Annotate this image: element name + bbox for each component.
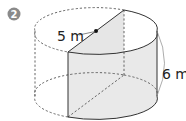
center-point <box>94 29 98 33</box>
height-label: 6 m <box>162 66 186 82</box>
problem-number-badge: 2 <box>8 8 21 21</box>
problem-number: 2 <box>11 9 18 20</box>
height-bracket <box>157 31 165 96</box>
radius-label: 5 m <box>57 28 84 44</box>
cylinder-diagram: 2 5 m 6 m <box>0 0 186 121</box>
